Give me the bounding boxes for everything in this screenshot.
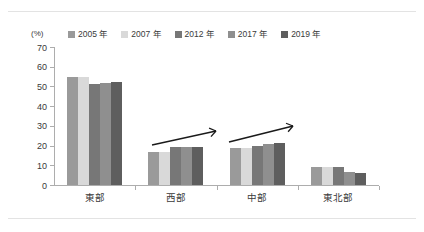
- y-axis-tick-label: 10: [37, 161, 47, 171]
- legend-item: 2005 年: [68, 30, 108, 39]
- legend-item-label: 2005 年: [78, 30, 108, 39]
- x-axis-category-label: 東北部: [323, 190, 353, 204]
- legend-item: 2017 年: [228, 30, 268, 39]
- chart-legend: 2005 年2007 年2012 年2017 年2019 年: [68, 28, 321, 40]
- y-axis-tick-label: 70: [37, 43, 47, 53]
- y-axis-unit-label: (%): [31, 29, 43, 38]
- bar: [322, 167, 333, 185]
- x-axis-tick: [298, 186, 299, 190]
- y-axis-tick: 70: [50, 47, 54, 48]
- bar-group: [311, 167, 366, 185]
- legend-item: 2007 年: [121, 30, 161, 39]
- legend-swatch-icon: [121, 31, 128, 38]
- top-divider: [8, 11, 416, 12]
- legend-swatch-icon: [175, 31, 182, 38]
- legend-item-label: 2007 年: [131, 30, 161, 39]
- y-axis-tick-label: 20: [37, 141, 47, 151]
- bottom-divider: [8, 218, 416, 219]
- trend-arrow-central: [219, 116, 303, 152]
- bar: [355, 173, 366, 185]
- bar: [148, 152, 159, 185]
- bar: [111, 82, 122, 186]
- y-axis-tick-label: 30: [37, 121, 47, 131]
- legend-swatch-icon: [281, 31, 288, 38]
- legend-swatch-icon: [228, 31, 235, 38]
- y-axis-tick: 30: [50, 126, 54, 127]
- legend-item-label: 2012 年: [185, 30, 215, 39]
- bar: [89, 84, 100, 185]
- chart-figure: (%) 2005 年2007 年2012 年2017 年2019 年 01020…: [0, 0, 424, 232]
- legend-item-label: 2017 年: [238, 30, 268, 39]
- x-axis-category-label: 東部: [85, 190, 105, 204]
- y-axis-tick: 40: [50, 106, 54, 107]
- bar: [230, 148, 241, 185]
- x-axis-tick: [135, 186, 136, 190]
- y-axis-line: [54, 47, 55, 186]
- x-axis-tick: [217, 186, 218, 190]
- y-axis-tick: 0: [50, 185, 54, 186]
- x-axis-category-label: 中部: [247, 190, 267, 204]
- plot-area: 010203040506070東部西部中部東北部: [54, 47, 379, 186]
- bar: [67, 77, 78, 185]
- bar: [333, 167, 344, 185]
- legend-item: 2012 年: [175, 30, 215, 39]
- y-axis-tick: 50: [50, 86, 54, 87]
- y-axis-tick: 60: [50, 67, 54, 68]
- y-axis-tick-label: 0: [42, 181, 47, 191]
- bar: [241, 148, 252, 185]
- y-axis-tick-label: 40: [37, 102, 47, 112]
- y-axis-tick-label: 50: [37, 82, 47, 92]
- bar: [344, 172, 355, 185]
- bar-group: [67, 77, 122, 185]
- bar: [78, 77, 89, 185]
- y-axis-tick-label: 60: [37, 62, 47, 72]
- legend-swatch-icon: [68, 31, 75, 38]
- y-axis-tick: 20: [50, 146, 54, 147]
- legend-item: 2019 年: [281, 30, 321, 39]
- y-axis-tick: 10: [50, 165, 54, 166]
- bar: [311, 167, 322, 185]
- trend-arrow-west: [142, 121, 226, 155]
- x-axis-tick: [379, 186, 380, 190]
- legend-item-label: 2019 年: [291, 30, 321, 39]
- bar: [159, 152, 170, 186]
- bar: [100, 83, 111, 186]
- x-axis-category-label: 西部: [166, 190, 186, 204]
